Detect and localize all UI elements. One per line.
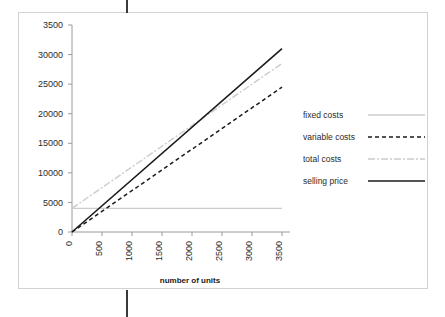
legend-label-variable-costs: variable costs [303,132,355,142]
y-tick-label-3500: 3500 [43,20,63,30]
break-even-chart: 0500010000150002000025000300003500 05001… [0,0,445,317]
x-tick-label-1500: 1500 [154,241,164,261]
y-tick-label-25000: 25000 [38,79,63,89]
legend-label-fixed-costs: fixed costs [303,110,343,120]
y-tick-label-20000: 20000 [38,109,63,119]
x-tick-label-2500: 2500 [214,241,224,261]
x-tick-label-0: 0 [64,241,74,246]
x-axis-title: number of units [160,276,221,285]
x-axis-ticks [72,232,282,236]
legend-entry-total-costs[interactable]: total costs [303,154,425,164]
legend-entry-selling-price[interactable]: selling price [303,176,425,186]
chart-axes [68,25,290,236]
x-tick-label-1000: 1000 [124,241,134,261]
x-tick-label-500: 500 [94,241,104,256]
x-tick-label-2000: 2000 [184,241,194,261]
x-tick-label-3500: 3500 [274,241,284,261]
y-tick-label-5000: 5000 [43,198,63,208]
y-tick-label-30000: 30000 [38,50,63,60]
y-tick-label-0: 0 [58,227,63,237]
y-axis-ticks [68,25,72,232]
chart-legend: fixed costsvariable coststotal costssell… [303,110,425,186]
series-line-selling-price [72,49,282,232]
legend-label-selling-price: selling price [303,176,348,186]
legend-entry-variable-costs[interactable]: variable costs [303,132,425,142]
legend-label-total-costs: total costs [303,154,341,164]
x-tick-label-3000: 3000 [244,241,254,261]
x-axis-tick-labels: 0500100015002000250030003500 [64,241,284,261]
legend-entry-fixed-costs[interactable]: fixed costs [303,110,425,120]
y-tick-label-10000: 10000 [38,168,63,178]
y-axis-tick-labels: 0500010000150002000025000300003500 [38,20,63,237]
series-line-total-costs [72,63,282,208]
y-tick-label-15000: 15000 [38,138,63,148]
chart-series-group [72,49,282,232]
series-line-variable-costs [72,87,282,232]
